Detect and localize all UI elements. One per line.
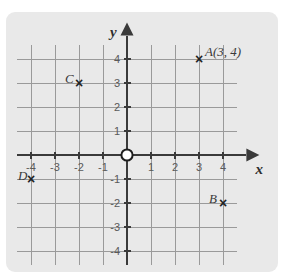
y-tick-label--3: -3 — [110, 222, 120, 233]
point-label-d: D — [18, 169, 27, 182]
x-tick-label-3: 3 — [196, 162, 202, 173]
y-tick-label-3: 3 — [114, 78, 120, 89]
y-tick-label-2: 2 — [114, 102, 120, 113]
y-tick-label--2: -2 — [110, 198, 120, 209]
point-marker-a[interactable]: × — [195, 52, 203, 66]
point-label-c: C — [65, 72, 74, 85]
x-tick-label-1: 1 — [148, 162, 154, 173]
y-tick-label-4: 4 — [114, 54, 120, 65]
y-axis-label: y — [110, 25, 117, 40]
x-tick-label-4: 4 — [220, 162, 226, 173]
y-tick-label--1: -1 — [110, 174, 120, 185]
plot-canvas — [0, 0, 285, 278]
x-tick-label-2: 2 — [172, 162, 178, 173]
origin-circle-icon — [121, 149, 132, 160]
point-marker-b[interactable]: × — [219, 196, 227, 210]
x-tick-label--3: -3 — [50, 162, 60, 173]
point-marker-c[interactable]: × — [75, 76, 83, 90]
point-label-a: A(3, 4) — [205, 45, 241, 58]
coordinate-plane-figure: -4-3-2-112344321-1-2-3-4xy×A(3, 4)×B×C×D — [0, 0, 285, 278]
x-tick-label--2: -2 — [74, 162, 84, 173]
y-tick-label--4: -4 — [110, 246, 120, 257]
point-label-b: B — [209, 192, 217, 205]
point-marker-d[interactable]: × — [27, 172, 35, 186]
x-axis-label: x — [255, 162, 263, 177]
y-tick-label-1: 1 — [114, 126, 120, 137]
x-tick-label--1: -1 — [98, 162, 108, 173]
